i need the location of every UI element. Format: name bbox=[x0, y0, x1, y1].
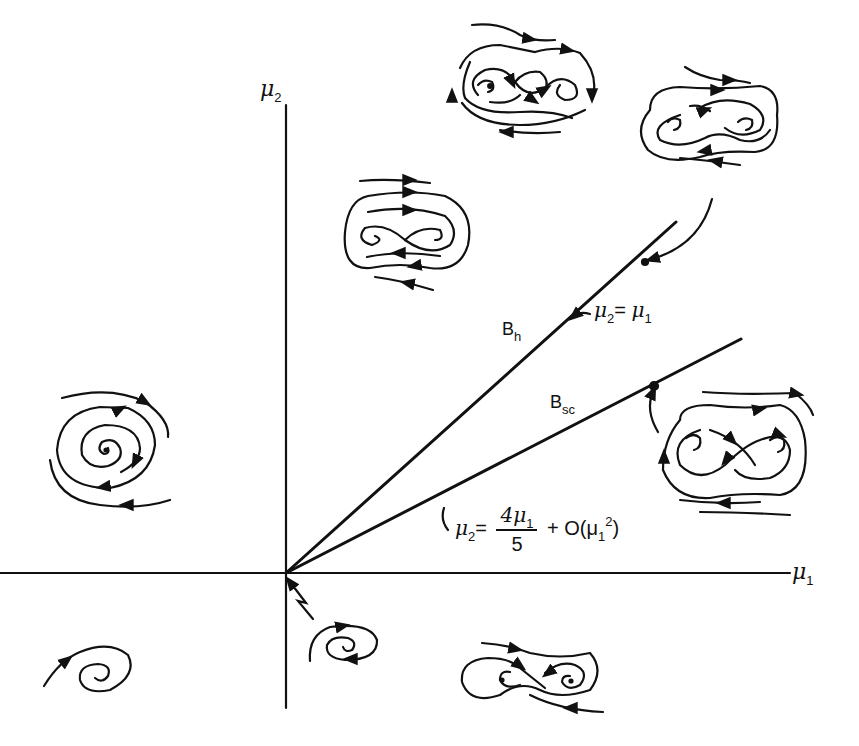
bsc-eq-order-sup: 2 bbox=[605, 514, 612, 529]
bh-eq-lhs: μ bbox=[594, 298, 607, 322]
bh-subscript: h bbox=[514, 329, 521, 344]
bh-eq-rhs: μ bbox=[631, 298, 644, 322]
bsc-label: Bsc bbox=[550, 392, 575, 413]
origin-pointer bbox=[290, 582, 313, 619]
bh-eq-equals: = bbox=[614, 299, 626, 321]
bsc-point bbox=[650, 382, 658, 390]
mu2-axis-label: μ2 bbox=[260, 76, 282, 102]
mu1-subscript: 1 bbox=[806, 573, 813, 588]
bsc-eq-pointer bbox=[443, 508, 448, 530]
bsc-eq-lhs: μ bbox=[455, 516, 468, 540]
bsc-eq-close-paren: ) bbox=[612, 517, 619, 539]
portrait-stable-focus bbox=[50, 392, 170, 506]
bsc-eq-num-sub: 1 bbox=[526, 516, 533, 531]
portrait-spiral-focus bbox=[44, 647, 131, 692]
portrait-unstable-foci bbox=[452, 24, 594, 133]
portrait-homoclinic bbox=[641, 67, 777, 165]
bsc-portrait-pointer bbox=[650, 392, 658, 432]
bsc-eq-num-text: 4μ bbox=[500, 503, 526, 527]
mu2-subscript: 2 bbox=[274, 90, 281, 105]
bsc-eq-order-sub: 1 bbox=[598, 529, 605, 544]
bsc-eq-lhs-sub: 2 bbox=[468, 529, 475, 544]
bsc-letter: B bbox=[550, 392, 562, 412]
bh-eq-pointer bbox=[574, 313, 590, 316]
bsc-eq-equals: = bbox=[475, 517, 487, 539]
bsc-eq-denominator: 5 bbox=[496, 531, 537, 556]
bsc-equation: μ2= 4μ1 5 + O(μ12) bbox=[455, 503, 619, 556]
bh-label: Bh bbox=[502, 319, 521, 340]
bh-point bbox=[642, 259, 648, 265]
bsc-eq-fraction: 4μ1 5 bbox=[496, 503, 537, 556]
bsc-eq-order-term: + O(μ bbox=[547, 517, 598, 539]
mu1-symbol: μ bbox=[792, 559, 806, 584]
bsc-eq-numerator: 4μ1 bbox=[496, 503, 537, 531]
bifurcation-diagram bbox=[0, 0, 859, 746]
bh-eq-lhs-sub: 2 bbox=[607, 311, 614, 326]
portrait-saddle-connection bbox=[663, 392, 813, 515]
bh-eq-rhs-sub: 1 bbox=[644, 311, 651, 326]
bsc-subscript: sc bbox=[562, 402, 575, 417]
bh-equation: μ2= μ1 bbox=[594, 298, 652, 322]
bh-letter: B bbox=[502, 319, 514, 339]
mu1-axis-label: μ1 bbox=[792, 559, 814, 585]
mu2-symbol: μ bbox=[260, 76, 274, 101]
portrait-saddle-two-foci bbox=[462, 643, 603, 712]
portrait-origin-spiral bbox=[310, 626, 377, 661]
portrait-saddle-with-cycle bbox=[345, 180, 470, 290]
bh-portrait-pointer bbox=[652, 199, 712, 259]
